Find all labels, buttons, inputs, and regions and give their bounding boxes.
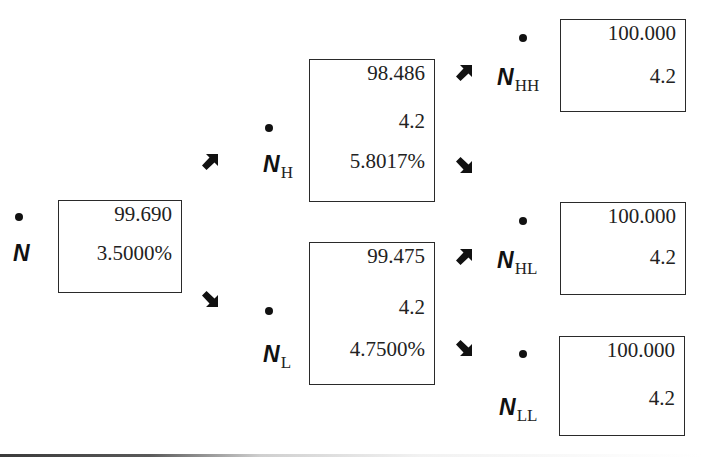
node-nhh-dot [519,34,527,42]
node-subscript: HL [515,259,538,278]
node-nll-label: NLL [499,394,537,421]
arrow-up-icon [456,247,474,265]
node-nl-label: NL [263,341,291,368]
node-subscript: L [281,353,291,372]
node-nhl-price: 100.000 [608,204,676,229]
node-nl-price: 99.475 [367,244,425,269]
node-symbol: N [13,240,30,266]
node-n-label: N [13,240,31,267]
node-nhh-label: NHH [497,64,539,91]
node-nhl-coupon: 4.2 [650,245,676,270]
node-symbol: N [497,247,514,273]
node-symbol: N [497,64,514,90]
arrow-up-icon [456,63,474,81]
node-symbol: N [263,151,280,177]
node-nhl-dot [519,217,527,225]
node-nh-rate: 5.8017% [350,149,425,174]
node-nhh-price: 100.000 [608,21,676,46]
node-nl-rate: 4.7500% [350,337,425,362]
node-nh-price: 98.486 [367,61,425,86]
node-nll-coupon: 4.2 [649,386,675,411]
node-n-dot [15,213,23,221]
node-nh-box: 98.486 4.2 5.8017% [309,59,435,202]
arrow-down-icon [202,291,220,309]
node-n-price: 99.690 [114,202,172,227]
node-nhl-label: NHL [497,247,537,274]
node-nll-price: 100.000 [607,338,675,363]
node-subscript: H [281,163,293,182]
node-symbol: N [499,394,516,420]
node-subscript: HH [515,76,540,95]
arrow-up-icon [202,152,220,170]
node-nhh-box: 100.000 4.2 [560,19,686,112]
node-nl-box: 99.475 4.2 4.7500% [309,242,435,385]
node-nll-box: 100.000 4.2 [559,336,685,436]
node-n-box: 99.690 3.5000% [58,200,182,293]
node-nh-label: NH [263,151,293,178]
node-nhl-box: 100.000 4.2 [560,202,686,295]
node-nh-dot [265,124,273,132]
node-nll-dot [519,350,527,358]
node-nhh-coupon: 4.2 [650,64,676,89]
arrow-down-icon [456,340,474,358]
arrow-down-icon [456,157,474,175]
node-nl-coupon: 4.2 [399,295,425,320]
node-nl-dot [265,307,273,315]
node-symbol: N [263,341,280,367]
node-nh-coupon: 4.2 [399,109,425,134]
node-n-rate: 3.5000% [97,241,172,266]
node-subscript: LL [517,406,538,425]
